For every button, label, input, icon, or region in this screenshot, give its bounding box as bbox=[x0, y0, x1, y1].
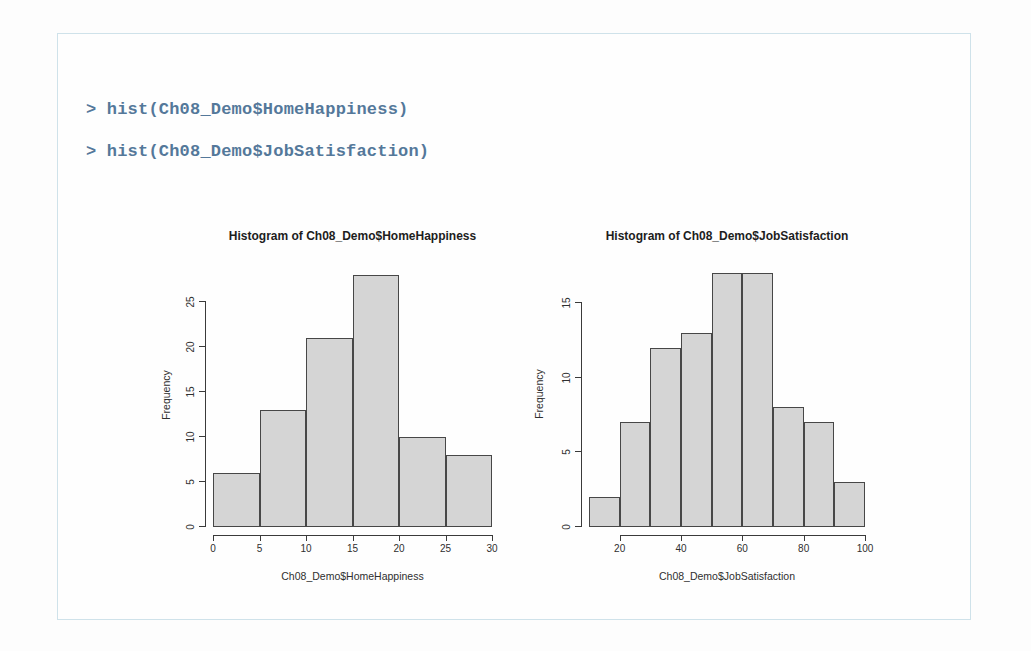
plot-area: 0510152025051015202530 bbox=[213, 275, 492, 527]
x-axis-tick-label: 20 bbox=[393, 543, 404, 554]
histogram-bar bbox=[681, 333, 712, 527]
x-axis-tick bbox=[399, 535, 400, 541]
y-axis bbox=[581, 303, 582, 527]
y-axis-tick bbox=[199, 346, 206, 347]
y-axis-tick-label: 0 bbox=[184, 512, 196, 542]
y-axis-tick-label: 25 bbox=[184, 287, 196, 317]
x-axis-tick-label: 80 bbox=[798, 543, 809, 554]
x-axis-label: Ch08_Demo$JobSatisfaction bbox=[589, 570, 865, 582]
y-axis-label-text: Frequency bbox=[532, 364, 546, 424]
x-axis-tick bbox=[353, 535, 354, 541]
x-axis-tick bbox=[492, 535, 493, 541]
histogram-bar bbox=[306, 338, 353, 527]
histogram-bar bbox=[804, 422, 835, 527]
y-axis-tick bbox=[199, 301, 206, 302]
y-axis-tick-label: 0 bbox=[560, 512, 572, 542]
page: { "page": { "background": "#fdfdfd", "fr… bbox=[0, 0, 1031, 651]
histogram-jobsatisfaction: Histogram of Ch08_Demo$JobSatisfaction F… bbox=[520, 225, 950, 595]
y-axis-tick bbox=[199, 391, 206, 392]
histogram-bar bbox=[742, 273, 773, 527]
histogram-bar bbox=[620, 422, 651, 527]
r-console-line: > hist(Ch08_Demo$JobSatisfaction) bbox=[86, 131, 429, 173]
x-axis-tick-label: 60 bbox=[737, 543, 748, 554]
y-axis-tick-label: 5 bbox=[560, 437, 572, 467]
x-axis-tick bbox=[804, 535, 805, 541]
x-axis-tick bbox=[865, 535, 866, 541]
x-axis-tick-label: 25 bbox=[440, 543, 451, 554]
x-axis-tick-label: 10 bbox=[300, 543, 311, 554]
histogram-bar bbox=[712, 273, 743, 527]
chart-title: Histogram of Ch08_Demo$JobSatisfaction bbox=[589, 229, 865, 243]
x-axis-tick-label: 5 bbox=[257, 543, 263, 554]
x-axis-tick-label: 20 bbox=[614, 543, 625, 554]
histogram-bar bbox=[399, 437, 446, 527]
r-console-output: > hist(Ch08_Demo$HomeHappiness) > hist(C… bbox=[86, 89, 429, 173]
y-axis bbox=[205, 302, 206, 527]
x-axis-tick bbox=[306, 535, 307, 541]
y-axis-label-text: Frequency bbox=[159, 365, 173, 425]
y-axis-tick bbox=[199, 481, 206, 482]
x-axis-tick bbox=[213, 535, 214, 541]
y-axis-tick-label: 15 bbox=[184, 377, 196, 407]
x-axis-tick bbox=[742, 535, 743, 541]
y-axis-tick-label: 10 bbox=[184, 422, 196, 452]
chart-title: Histogram of Ch08_Demo$HomeHappiness bbox=[213, 229, 492, 243]
histogram-homehappiness: Histogram of Ch08_Demo$HomeHappiness Fre… bbox=[140, 225, 570, 595]
plot-area: 05101520406080100 bbox=[589, 273, 865, 527]
x-axis-tick-label: 30 bbox=[486, 543, 497, 554]
x-axis-tick bbox=[620, 535, 621, 541]
histogram-bar bbox=[834, 482, 865, 527]
y-axis-tick bbox=[575, 451, 582, 452]
x-axis-tick-label: 15 bbox=[347, 543, 358, 554]
y-axis-tick-label: 15 bbox=[560, 288, 572, 318]
x-axis-label: Ch08_Demo$HomeHappiness bbox=[213, 570, 492, 582]
x-axis-tick bbox=[681, 535, 682, 541]
histogram-bar bbox=[446, 455, 493, 527]
y-axis-tick bbox=[199, 436, 206, 437]
histogram-bar bbox=[213, 473, 260, 527]
histogram-bar bbox=[260, 410, 307, 527]
y-axis-tick-label: 20 bbox=[184, 332, 196, 362]
x-axis-tick-label: 40 bbox=[675, 543, 686, 554]
y-axis-tick bbox=[575, 526, 582, 527]
histogram-bar bbox=[650, 348, 681, 527]
x-axis-tick-label: 0 bbox=[210, 543, 216, 554]
y-axis-tick-label: 10 bbox=[560, 363, 572, 393]
y-axis-tick bbox=[575, 302, 582, 303]
histogram-bar bbox=[353, 275, 400, 527]
y-axis-tick bbox=[575, 377, 582, 378]
x-axis-tick bbox=[446, 535, 447, 541]
x-axis-tick bbox=[260, 535, 261, 541]
r-console-line: > hist(Ch08_Demo$HomeHappiness) bbox=[86, 89, 429, 131]
histogram-bar bbox=[589, 497, 620, 527]
y-axis-tick-label: 5 bbox=[184, 467, 196, 497]
x-axis-tick-label: 100 bbox=[857, 543, 874, 554]
histogram-bar bbox=[773, 407, 804, 527]
y-axis-tick bbox=[199, 526, 206, 527]
